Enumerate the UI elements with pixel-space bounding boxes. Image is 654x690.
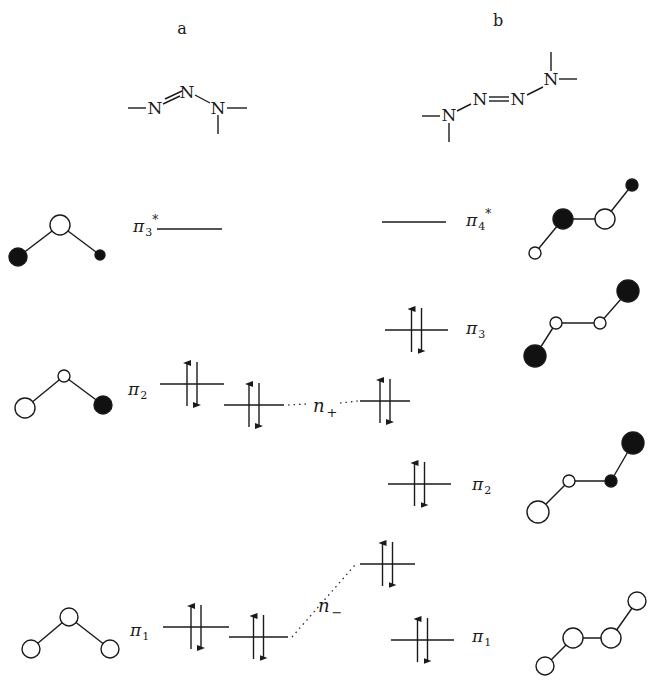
filled-lobe-icon [605,475,617,487]
level-label: π2 [471,474,491,497]
level-nplus-left [224,383,284,427]
level-pi2-a: π2 [127,362,224,406]
panel-label-b: b [493,11,503,30]
tetrazene-structure-b: NNNN [422,52,577,142]
level-pi3star-a: π3* [132,213,222,239]
bond-line [527,87,543,95]
open-lobe-icon [601,628,621,648]
correlation-nplus: n+ [288,395,358,420]
open-lobe-icon [527,501,549,523]
bond-line [163,96,180,104]
level-label: π4* [465,207,491,233]
orbital-pi2-b [527,432,644,523]
open-lobe-icon [628,592,646,610]
level-label: π3* [132,213,158,239]
open-lobe-icon [50,215,70,235]
orbital-pi3-b [524,280,639,367]
open-lobe-icon [22,640,40,658]
open-lobe-icon [529,247,541,259]
nitrogen-atom: N [442,105,457,125]
nitrogen-atom: N [473,89,488,109]
level-pi2-b: π2 [388,462,491,506]
open-lobe-icon [594,317,606,329]
level-label: π2 [127,379,147,402]
open-lobe-icon [595,209,615,229]
correlation-label: n− [318,595,343,620]
nitrogen-atom: N [544,69,559,89]
open-lobe-icon [15,398,35,418]
level-pi4star-b: π4* [382,207,491,233]
orbital-pi4star-b [529,179,638,259]
dotted-connector [340,401,358,403]
energy-levels: π3*π4*π3π2π2π1π1 [127,207,491,662]
open-lobe-icon [536,657,554,675]
level-nminus-left [229,615,288,659]
filled-lobe-icon [617,280,639,302]
filled-lobe-icon [524,345,546,367]
level-pi1-a: π1 [129,605,229,649]
open-lobe-icon [550,317,562,329]
correlation-lines: n+n− [288,395,358,637]
nitrogen-atom: N [148,98,163,118]
open-lobe-icon [563,475,575,487]
mo-diagram: a b NNN NNNN π3*π4*π3π2π2π1π1 n+n− [0,0,654,690]
filled-lobe-icon [9,248,27,266]
dotted-connector [288,404,308,405]
nitrogen-atom: N [511,89,526,109]
filled-lobe-icon [626,179,638,191]
nitrogen-atom: N [211,98,226,118]
orbital-pi2-a [15,370,112,418]
orbital-pi1-b [536,592,646,675]
level-pi1-b: π1 [391,618,491,662]
open-lobe-icon [101,640,119,658]
open-lobe-icon [58,370,70,382]
open-lobe-icon [563,628,583,648]
level-nplus-right [360,379,410,423]
bond-line [457,104,471,111]
filled-lobe-icon [94,396,112,414]
level-label: π3 [465,318,485,341]
filled-lobe-icon [622,432,644,454]
level-nminus-right [360,542,415,586]
correlation-nminus: n− [292,565,355,637]
correlation-label: n+ [313,395,338,420]
filled-lobe-icon [95,250,105,260]
filled-lobe-icon [553,209,573,229]
level-pi3-b: π3 [385,308,485,352]
orbital-pi3star-a [9,215,105,266]
triazene-structure-a: NNN [128,82,247,134]
level-label: π1 [471,626,491,649]
level-label: π1 [129,620,149,643]
nitrogen-atom: N [180,82,195,102]
orbital-pi1-a [22,608,119,658]
open-lobe-icon [60,608,78,626]
bond-line [195,95,210,103]
panel-label-a: a [177,19,187,38]
